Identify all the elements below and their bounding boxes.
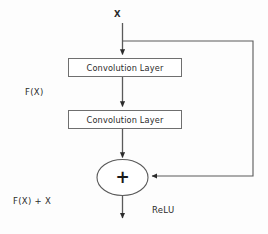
input-label: X — [114, 9, 121, 19]
residual-function-label: F(X) — [25, 87, 44, 97]
plus-icon: + — [113, 168, 132, 187]
diagram-canvas: + Convolution Layer Convolution Layer X … — [0, 0, 268, 234]
conv-layer-box-2[interactable]: Convolution Layer — [68, 110, 182, 129]
conv-layer-box-2-label: Convolution Layer — [87, 115, 164, 125]
conv-layer-box-1[interactable]: Convolution Layer — [68, 58, 182, 77]
activation-label: ReLU — [152, 205, 175, 215]
output-sum-label: F(X) + X — [13, 196, 51, 206]
conv-layer-box-1-label: Convolution Layer — [87, 63, 164, 73]
